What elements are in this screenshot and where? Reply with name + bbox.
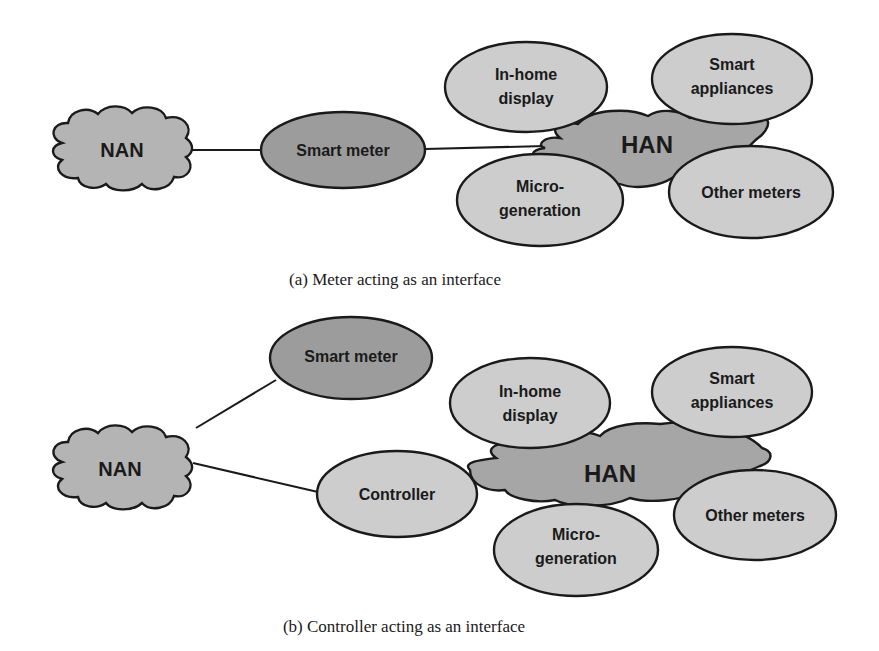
han-label: HAN <box>621 131 673 158</box>
in-home-display-label-1: In-home <box>495 66 557 83</box>
smart-appliances-node: Smart appliances <box>652 347 812 437</box>
other-meters-label: Other meters <box>705 507 805 524</box>
smart-appliances-label-1: Smart <box>709 56 755 73</box>
controller-node: Controller <box>317 451 477 537</box>
edge-nan-controller <box>193 463 318 492</box>
micro-generation-label-1: Micro- <box>516 178 564 195</box>
smart-meter-label: Smart meter <box>296 142 389 159</box>
nan-cloud: NAN <box>53 106 192 190</box>
in-home-display-label-2: display <box>498 90 553 107</box>
edge-smart-meter-han <box>425 146 545 149</box>
smart-grid-diagram: NAN Smart meter HAN In-home display Smar… <box>0 0 879 651</box>
micro-generation-node: Micro- generation <box>457 154 623 246</box>
smart-meter-label: Smart meter <box>304 348 397 365</box>
smart-meter-node: Smart meter <box>261 112 425 188</box>
other-meters-node: Other meters <box>674 470 836 560</box>
in-home-display-node: In-home display <box>445 42 607 132</box>
other-meters-label: Other meters <box>701 184 801 201</box>
micro-generation-label-2: generation <box>499 202 581 219</box>
han-label: HAN <box>584 460 636 487</box>
smart-appliances-label-2: appliances <box>691 80 774 97</box>
micro-generation-label-2: generation <box>535 550 617 567</box>
nan-label: NAN <box>100 139 143 161</box>
nan-label: NAN <box>98 458 141 480</box>
smart-appliances-node: Smart appliances <box>652 34 812 124</box>
micro-generation-node: Micro- generation <box>494 504 658 596</box>
diagram-b: NAN Smart meter HAN Controller In-home d… <box>53 317 836 636</box>
other-meters-node: Other meters <box>669 146 833 238</box>
controller-label: Controller <box>359 486 435 503</box>
micro-generation-label-1: Micro- <box>552 526 600 543</box>
edge-nan-smart-meter <box>196 380 276 428</box>
smart-appliances-label-1: Smart <box>709 370 755 387</box>
caption-a: (a) Meter acting as an interface <box>289 270 501 289</box>
nan-cloud: NAN <box>53 425 192 509</box>
in-home-display-label-1: In-home <box>499 383 561 400</box>
caption-b: (b) Controller acting as an interface <box>283 617 525 636</box>
in-home-display-label-2: display <box>502 407 557 424</box>
smart-meter-node: Smart meter <box>270 317 432 399</box>
smart-appliances-label-2: appliances <box>691 394 774 411</box>
diagram-a: NAN Smart meter HAN In-home display Smar… <box>53 34 833 289</box>
in-home-display-node: In-home display <box>450 358 610 448</box>
